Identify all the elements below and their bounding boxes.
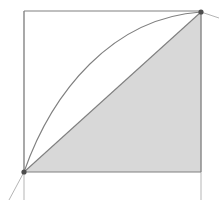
upper-point-marker [198, 9, 203, 14]
geometric-diagram [0, 0, 222, 213]
tangent-segment-line [201, 12, 219, 18]
figure-container [0, 0, 222, 213]
origin-point-marker [21, 169, 26, 174]
secant-extension-line [9, 172, 24, 200]
